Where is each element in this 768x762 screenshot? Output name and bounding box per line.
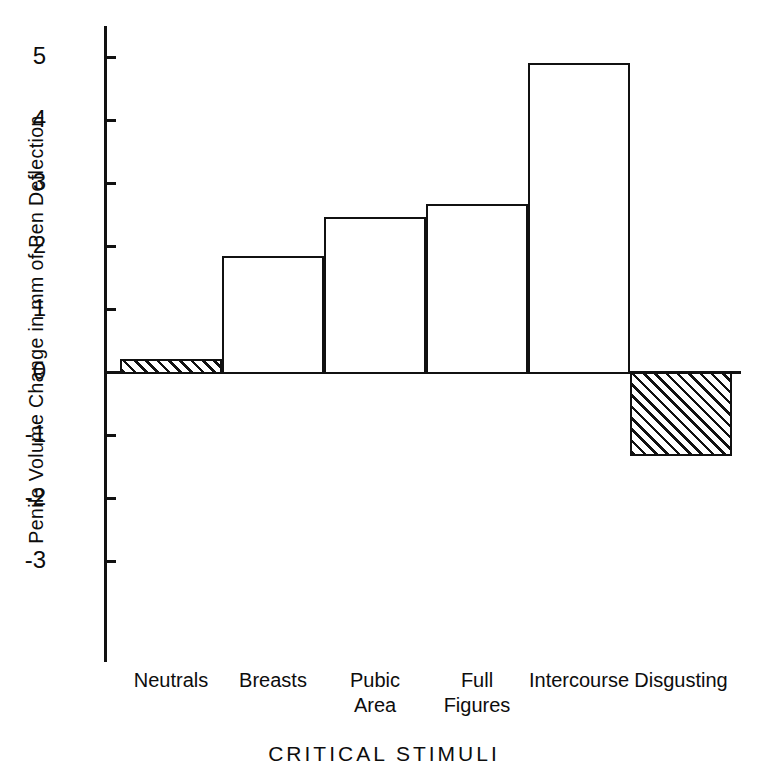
y-tick — [104, 497, 116, 500]
plot-area: 543210-1-2-3 NeutralsBreastsPubic AreaFu… — [0, 0, 768, 762]
y-tick — [104, 119, 116, 122]
bar — [324, 217, 426, 374]
y-tick-label: 0 — [0, 359, 46, 383]
y-tick-label: 5 — [0, 44, 46, 68]
y-tick — [104, 308, 116, 311]
y-tick-label: 2 — [0, 233, 46, 257]
y-tick — [104, 245, 116, 248]
bar — [426, 204, 528, 374]
bar — [528, 63, 630, 374]
y-tick — [104, 182, 116, 185]
y-tick-label: -3 — [0, 548, 46, 572]
x-category-label: Disgusting — [608, 668, 754, 693]
y-tick-label: -2 — [0, 485, 46, 509]
y-tick-label: 1 — [0, 296, 46, 320]
bar-chart: Penile Volume Change in mm of Pen Deflec… — [0, 0, 768, 762]
bar — [120, 359, 222, 374]
y-tick — [104, 56, 116, 59]
y-tick-label: -1 — [0, 422, 46, 446]
y-tick — [104, 371, 116, 374]
y-tick — [104, 434, 116, 437]
y-tick — [104, 560, 116, 563]
bar — [630, 372, 732, 456]
y-tick-label: 3 — [0, 170, 46, 194]
bar — [222, 256, 324, 374]
x-axis-title: CRITICAL STIMULI — [0, 742, 768, 762]
y-tick-label: 4 — [0, 107, 46, 131]
